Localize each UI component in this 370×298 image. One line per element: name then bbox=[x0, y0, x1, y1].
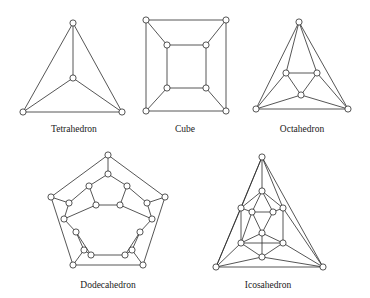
graph-vertex bbox=[203, 85, 209, 91]
graph-edge bbox=[256, 95, 301, 109]
graph-vertex bbox=[164, 42, 170, 48]
graph-edge bbox=[301, 73, 317, 95]
graph-edge bbox=[146, 88, 167, 111]
graph-edge bbox=[216, 243, 241, 267]
graph-edge bbox=[283, 208, 323, 267]
graph-vertex bbox=[203, 42, 209, 48]
graph-edge bbox=[127, 186, 147, 203]
graph-canvas: TetrahedronCubeOctahedronDodecahedronIco… bbox=[0, 0, 370, 298]
graph-vertex bbox=[143, 108, 149, 114]
graph-vertex bbox=[124, 183, 130, 189]
platonic-solids-figure: TetrahedronCubeOctahedronDodecahedronIco… bbox=[0, 0, 370, 298]
graph-edge bbox=[216, 257, 262, 267]
graph-vertex bbox=[280, 240, 286, 246]
graph-vertex bbox=[144, 200, 150, 206]
graph-vertex bbox=[259, 154, 265, 160]
solid-label-tetrahedron: Tetrahedron bbox=[51, 124, 97, 134]
graph-vertex bbox=[298, 92, 304, 98]
graph-edge bbox=[64, 205, 96, 219]
graph-vertex bbox=[164, 85, 170, 91]
graph-vertex bbox=[86, 183, 92, 189]
graph-edge bbox=[69, 186, 89, 203]
graph-vertex bbox=[223, 108, 229, 114]
graph-edge bbox=[262, 212, 273, 233]
graph-edge bbox=[241, 157, 262, 208]
graph-vertex bbox=[129, 247, 135, 253]
graph-vertex bbox=[249, 209, 255, 215]
graph-vertex bbox=[259, 188, 265, 194]
graph-vertex bbox=[162, 194, 168, 200]
graph-vertex bbox=[61, 216, 67, 222]
graph-vertex bbox=[259, 230, 265, 236]
graph-vertex bbox=[283, 70, 289, 76]
graph-vertex bbox=[122, 252, 128, 258]
graph-edge bbox=[256, 22, 299, 109]
graph-edge bbox=[262, 243, 283, 257]
graph-vertex bbox=[280, 205, 286, 211]
graph-vertex bbox=[296, 19, 302, 25]
graph-edge bbox=[299, 22, 317, 73]
graph-edge bbox=[299, 22, 348, 109]
graph-vertex bbox=[70, 262, 76, 268]
graph-vertex bbox=[105, 152, 111, 158]
solid-label-icosahedron: Icosahedron bbox=[245, 280, 292, 290]
graph-edge bbox=[23, 23, 73, 112]
graph-edge bbox=[262, 257, 323, 267]
vertices-tetrahedron bbox=[20, 20, 125, 115]
graph-edge bbox=[108, 155, 165, 197]
solid-graph-tetrahedron: Tetrahedron bbox=[20, 20, 125, 134]
graph-vertex bbox=[73, 229, 79, 235]
graph-vertex bbox=[223, 17, 229, 23]
edges-cube bbox=[146, 20, 226, 111]
graph-vertex bbox=[320, 264, 326, 270]
graph-vertex bbox=[81, 247, 87, 253]
graph-vertex bbox=[93, 202, 99, 208]
graph-edge bbox=[241, 243, 262, 257]
graph-vertex bbox=[149, 216, 155, 222]
graph-vertex bbox=[88, 252, 94, 258]
graph-vertex bbox=[117, 202, 123, 208]
solids-layer: TetrahedronCubeOctahedronDodecahedronIco… bbox=[20, 17, 351, 290]
solid-graph-octahedron: Octahedron bbox=[253, 19, 351, 134]
graph-edge bbox=[73, 78, 122, 112]
graph-edge bbox=[262, 157, 283, 208]
graph-edge bbox=[146, 20, 167, 45]
graph-vertex bbox=[143, 17, 149, 23]
graph-vertex bbox=[119, 109, 125, 115]
graph-edge bbox=[286, 73, 301, 95]
graph-edge bbox=[206, 88, 226, 111]
graph-vertex bbox=[238, 240, 244, 246]
graph-vertex bbox=[105, 171, 111, 177]
edges-tetrahedron bbox=[23, 23, 122, 112]
graph-edge bbox=[317, 73, 348, 109]
graph-vertex bbox=[70, 75, 76, 81]
graph-vertex bbox=[270, 209, 276, 215]
edges-icosahedron bbox=[216, 157, 323, 267]
solid-graph-icosahedron: Icosahedron bbox=[213, 154, 326, 290]
graph-vertex bbox=[259, 254, 265, 260]
graph-vertex bbox=[213, 264, 219, 270]
graph-vertex bbox=[345, 106, 351, 112]
solid-label-octahedron: Octahedron bbox=[280, 124, 325, 134]
solid-graph-dodecahedron: Dodecahedron bbox=[48, 152, 168, 290]
graph-edge bbox=[51, 155, 108, 197]
graph-edge bbox=[206, 20, 226, 45]
solid-graph-cube: Cube bbox=[143, 17, 229, 134]
vertices-octahedron bbox=[253, 19, 351, 112]
graph-edge bbox=[120, 205, 152, 219]
graph-edge bbox=[262, 191, 273, 212]
graph-vertex bbox=[48, 194, 54, 200]
graph-vertex bbox=[253, 106, 259, 112]
graph-edge bbox=[286, 22, 299, 73]
graph-vertex bbox=[137, 229, 143, 235]
graph-vertex bbox=[66, 200, 72, 206]
graph-edge bbox=[143, 197, 165, 265]
graph-edge bbox=[216, 208, 241, 267]
graph-vertex bbox=[140, 262, 146, 268]
graph-edge bbox=[51, 197, 73, 265]
graph-vertex bbox=[70, 20, 76, 26]
solid-label-cube: Cube bbox=[175, 124, 195, 134]
graph-edge bbox=[73, 23, 122, 112]
graph-vertex bbox=[20, 109, 26, 115]
solid-label-dodecahedron: Dodecahedron bbox=[80, 280, 136, 290]
